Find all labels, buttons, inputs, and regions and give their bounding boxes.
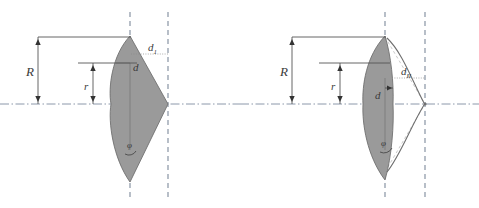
label-R-left: R <box>25 64 34 79</box>
label-phi-right: φ <box>381 138 386 148</box>
tip-convergence-point <box>423 102 426 105</box>
label-r-left: r <box>84 80 89 92</box>
r-minor-arrow-down-icon-right <box>337 96 342 102</box>
droplet-cone-shape <box>110 36 168 182</box>
r-major-arrow-up-icon-right <box>289 39 294 45</box>
right-panel-diagram: R r dII d φ <box>240 0 479 208</box>
label-r-right: r <box>331 80 336 92</box>
label-d1-left: d1 <box>148 41 157 56</box>
figure-root: R r d1 d φ <box>0 0 479 208</box>
droplet-lens-shape <box>363 36 393 180</box>
label-d-right: d <box>375 89 381 101</box>
r-minor-arrow-up-icon <box>90 65 95 71</box>
r-major-arrow-up-icon <box>35 39 40 45</box>
r-major-arrow-down-icon <box>35 96 40 102</box>
label-dII-right: dII <box>401 65 412 80</box>
r-major-arrow-down-icon-right <box>289 96 294 102</box>
left-panel-diagram: R r d1 d φ <box>0 0 240 208</box>
label-d-left: d <box>133 61 139 73</box>
label-phi-left: φ <box>127 140 132 150</box>
r-minor-arrow-down-icon <box>90 96 95 102</box>
r-minor-arrow-up-icon-right <box>337 65 342 71</box>
label-R-right: R <box>279 64 288 79</box>
